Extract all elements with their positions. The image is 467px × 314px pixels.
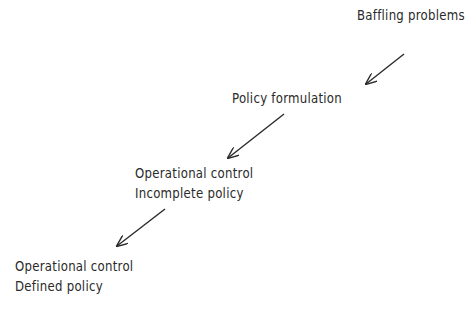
node-policy-formulation: Policy formulation: [232, 88, 342, 108]
node-label-line2: Defined policy: [15, 276, 133, 296]
node-baffling-problems: Baffling problems: [357, 5, 465, 25]
node-label-line1: Operational control: [135, 163, 253, 183]
node-operational-control-defined: Operational control Defined policy: [15, 256, 133, 296]
node-label-line1: Operational control: [15, 256, 133, 276]
arrow-baffling-to-formulation: [366, 54, 404, 84]
node-label-line2: Incomplete policy: [135, 183, 253, 203]
node-operational-control-incomplete: Operational control Incomplete policy: [135, 163, 253, 203]
arrow-formulation-to-incomplete: [228, 114, 284, 158]
arrow-incomplete-to-defined: [117, 209, 165, 246]
node-label: Policy formulation: [232, 88, 342, 108]
node-label: Baffling problems: [357, 5, 465, 25]
